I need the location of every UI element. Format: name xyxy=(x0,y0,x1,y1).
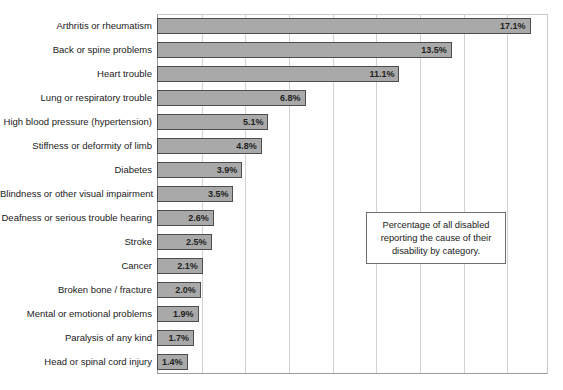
category-label: Paralysis of any kind xyxy=(0,326,152,350)
bar[interactable]: 2.0% xyxy=(157,282,201,298)
bar-value-label: 2.0% xyxy=(175,283,196,297)
bar-row: Paralysis of any kind1.7% xyxy=(0,326,563,350)
category-label: Mental or emotional problems xyxy=(0,302,152,326)
bar-value-label: 3.5% xyxy=(208,187,229,201)
bar-value-label: 2.6% xyxy=(188,211,209,225)
bar-value-label: 6.8% xyxy=(280,91,301,105)
category-label: Cancer xyxy=(0,254,152,278)
bar-row: Back or spine problems13.5% xyxy=(0,38,563,62)
bar-value-label: 13.5% xyxy=(421,43,447,57)
bar-value-label: 11.1% xyxy=(369,67,394,81)
category-label: Lung or respiratory trouble xyxy=(0,86,152,110)
category-label: Back or spine problems xyxy=(0,38,152,62)
bar[interactable]: 11.1% xyxy=(157,66,399,82)
annotation-box: Percentage of all disabled reporting the… xyxy=(366,212,506,264)
bar-row: Broken bone / fracture2.0% xyxy=(0,278,563,302)
bar-value-label: 2.1% xyxy=(177,259,198,273)
bar[interactable]: 1.4% xyxy=(157,354,188,370)
bar[interactable]: 17.1% xyxy=(157,18,531,34)
bar-wrapper: 1.9% xyxy=(157,306,199,322)
category-label: Arthritis or rheumatism xyxy=(0,14,152,38)
bar-value-label: 4.8% xyxy=(236,139,257,153)
category-label: Diabetes xyxy=(0,158,152,182)
category-label: Stiffness or deformity of limb xyxy=(0,134,152,158)
bar-wrapper: 4.8% xyxy=(157,138,262,154)
bar-value-label: 1.9% xyxy=(173,307,194,321)
bar-wrapper: 6.8% xyxy=(157,90,306,106)
bar[interactable]: 6.8% xyxy=(157,90,306,106)
bar-rows: Arthritis or rheumatism17.1%Back or spin… xyxy=(0,14,563,374)
annotation-text: Percentage of all disabled reporting the… xyxy=(367,219,505,258)
bar-value-label: 1.7% xyxy=(169,331,190,345)
bar-row: Mental or emotional problems1.9% xyxy=(0,302,563,326)
bar[interactable]: 3.5% xyxy=(157,186,233,202)
bar-row: Arthritis or rheumatism17.1% xyxy=(0,14,563,38)
bar-wrapper: 2.1% xyxy=(157,258,203,274)
bar[interactable]: 1.9% xyxy=(157,306,199,322)
bar[interactable]: 2.1% xyxy=(157,258,203,274)
bar-row: Heart trouble11.1% xyxy=(0,62,563,86)
bar-value-label: 5.1% xyxy=(243,115,264,129)
bar[interactable]: 2.5% xyxy=(157,234,212,250)
bar-value-label: 1.4% xyxy=(162,355,183,369)
category-label: Head or spinal cord injury xyxy=(0,350,152,374)
bar-row: Stiffness or deformity of limb4.8% xyxy=(0,134,563,158)
bar-wrapper: 17.1% xyxy=(157,18,531,34)
bar-wrapper: 2.5% xyxy=(157,234,212,250)
category-label: Heart trouble xyxy=(0,62,152,86)
category-label: Deafness or serious trouble hearing xyxy=(0,206,152,230)
bar[interactable]: 2.6% xyxy=(157,210,214,226)
bar-wrapper: 1.7% xyxy=(157,330,194,346)
bar-value-label: 2.5% xyxy=(186,235,207,249)
bar[interactable]: 4.8% xyxy=(157,138,262,154)
bar[interactable]: 1.7% xyxy=(157,330,194,346)
bar-row: Blindness or other visual impairment3.5% xyxy=(0,182,563,206)
bar[interactable]: 3.9% xyxy=(157,162,242,178)
category-label: Broken bone / fracture xyxy=(0,278,152,302)
bar-wrapper: 1.4% xyxy=(157,354,188,370)
bar-wrapper: 11.1% xyxy=(157,66,399,82)
bar-row: Lung or respiratory trouble6.8% xyxy=(0,86,563,110)
category-label: Stroke xyxy=(0,230,152,254)
bar-wrapper: 2.6% xyxy=(157,210,214,226)
category-label: High blood pressure (hypertension) xyxy=(0,110,152,134)
bar-wrapper: 13.5% xyxy=(157,42,452,58)
bar-chart: Arthritis or rheumatism17.1%Back or spin… xyxy=(0,0,563,390)
bar-wrapper: 2.0% xyxy=(157,282,201,298)
bar-wrapper: 5.1% xyxy=(157,114,268,130)
bar-wrapper: 3.9% xyxy=(157,162,242,178)
bar-value-label: 3.9% xyxy=(217,163,238,177)
bar-row: Diabetes3.9% xyxy=(0,158,563,182)
bar-row: High blood pressure (hypertension)5.1% xyxy=(0,110,563,134)
bar-wrapper: 3.5% xyxy=(157,186,233,202)
bar[interactable]: 13.5% xyxy=(157,42,452,58)
bar[interactable]: 5.1% xyxy=(157,114,268,130)
category-label: Blindness or other visual impairment xyxy=(0,182,152,206)
bar-row: Head or spinal cord injury1.4% xyxy=(0,350,563,374)
bar-value-label: 17.1% xyxy=(500,19,526,33)
